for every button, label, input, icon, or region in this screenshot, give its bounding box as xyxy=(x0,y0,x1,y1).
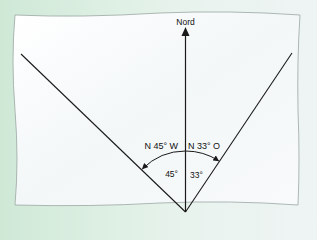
bearing-diagram: Nord N 45° W N 33° O 45° 33° xyxy=(0,0,309,220)
bearing-east-label: N 33° O xyxy=(188,141,220,151)
angle-east-label: 33° xyxy=(190,170,203,180)
north-label: Nord xyxy=(176,17,195,27)
bearing-west-label: N 45° W xyxy=(144,141,178,151)
angle-west-label: 45° xyxy=(165,169,178,179)
paper-sheet xyxy=(13,12,300,206)
